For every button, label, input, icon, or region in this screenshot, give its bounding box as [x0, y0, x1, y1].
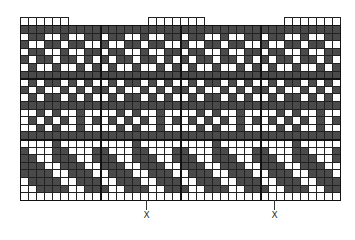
marker-line	[274, 200, 275, 210]
marker-x-label: X	[271, 210, 277, 220]
repeat-divider-horizontal	[20, 78, 340, 80]
repeat-divider-vertical	[260, 25, 262, 200]
marker-line	[146, 200, 147, 210]
repeat-divider-vertical	[100, 25, 102, 200]
repeat-divider-vertical	[180, 25, 182, 200]
marker-x-label: X	[143, 210, 149, 220]
repeat-divider-horizontal	[20, 139, 340, 141]
